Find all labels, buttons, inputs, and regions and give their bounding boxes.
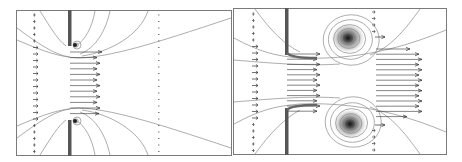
- vortex-core: [73, 43, 77, 47]
- vortex-core: [73, 119, 77, 123]
- figure: [0, 0, 462, 162]
- panel-right: [234, 8, 447, 155]
- wall-bottom: [68, 120, 72, 156]
- wall-top: [68, 10, 72, 46]
- wall-bottom: [285, 108, 289, 155]
- panel-left: [17, 10, 232, 156]
- panel-frame: [17, 11, 232, 156]
- wall-top: [285, 8, 289, 55]
